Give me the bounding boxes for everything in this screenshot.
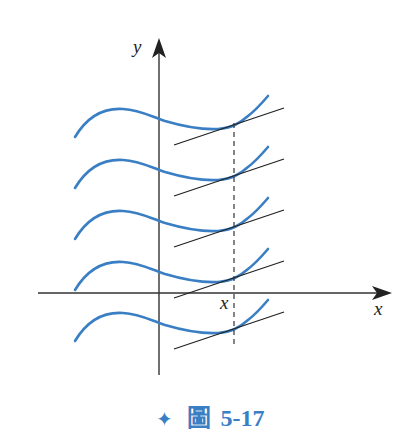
caption-label: 圖: [187, 405, 211, 431]
star-icon: ✦: [156, 408, 173, 430]
curve-2: [75, 147, 284, 196]
curve-4: [75, 249, 284, 298]
x-axis: [38, 286, 392, 300]
figure: y x x: [0, 0, 420, 447]
x-marker-label: x: [219, 292, 229, 313]
x-axis-label: x: [373, 298, 383, 319]
y-axis-label: y: [131, 36, 142, 57]
curve-3: [75, 198, 284, 247]
curve-5: [75, 300, 284, 349]
curve-1: [75, 96, 284, 145]
caption-number: 5-17: [221, 405, 265, 431]
figure-caption: ✦圖5-17: [0, 398, 420, 433]
